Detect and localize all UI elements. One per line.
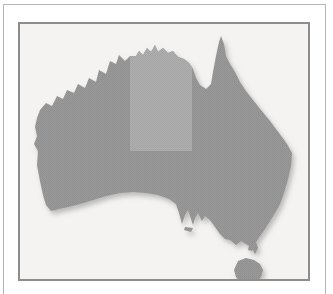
halftone-texture — [0, 0, 333, 294]
australia-map — [0, 0, 333, 294]
